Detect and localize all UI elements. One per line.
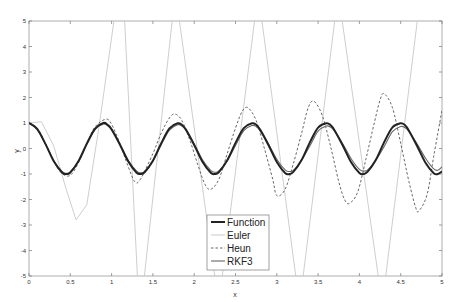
- y-tick-label: 2: [23, 95, 27, 101]
- y-axis-label: y: [13, 149, 21, 153]
- y-tick-label: -4: [21, 248, 27, 254]
- y-tick-label: 4: [23, 44, 27, 50]
- y-tick-label: -5: [21, 273, 27, 279]
- x-tick-label: 3: [275, 279, 279, 285]
- y-tick-label: -2: [21, 197, 27, 203]
- y-tick-label: 5: [23, 18, 27, 24]
- x-tick-label: 5: [440, 279, 444, 285]
- legend-label-rkf3: RKF3: [227, 256, 253, 267]
- x-tick-label: 2.5: [231, 279, 240, 285]
- x-tick-label: 3.5: [314, 279, 323, 285]
- x-tick-label: 2: [193, 279, 197, 285]
- line-chart: 00.511.522.533.544.55-5-4-3-2-1012345 x …: [0, 0, 460, 302]
- y-tick-label: -3: [21, 222, 27, 228]
- x-tick-label: 4: [358, 279, 362, 285]
- legend-label-euler: Euler: [227, 230, 251, 241]
- y-tick-label: 0: [23, 146, 27, 152]
- x-tick-label: 1: [110, 279, 114, 285]
- legend: Function Euler Heun RKF3: [207, 215, 269, 270]
- x-tick-label: 0: [27, 279, 31, 285]
- x-tick-label: 1.5: [149, 279, 158, 285]
- y-tick-label: 3: [23, 69, 27, 75]
- y-tick-label: -1: [21, 171, 27, 177]
- legend-label-heun: Heun: [227, 243, 251, 254]
- x-axis-label: x: [233, 291, 237, 298]
- y-tick-label: 1: [23, 120, 27, 126]
- x-tick-label: 4.5: [397, 279, 406, 285]
- x-tick-label: 0.5: [66, 279, 75, 285]
- legend-label-function: Function: [227, 217, 265, 228]
